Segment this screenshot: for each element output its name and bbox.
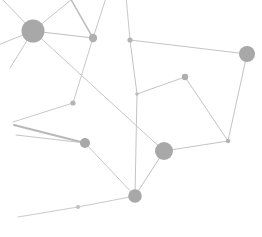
graph-edge <box>69 0 93 38</box>
graph-edge <box>13 103 73 122</box>
graph-edge <box>137 77 185 94</box>
graph-node[interactable] <box>182 74 188 80</box>
network-graph-canvas <box>0 0 262 237</box>
graph-edge <box>135 94 137 196</box>
graph-edge <box>164 141 228 151</box>
graph-node[interactable] <box>70 100 75 105</box>
graph-edge <box>130 40 247 54</box>
graph-node[interactable] <box>22 20 45 43</box>
network-graph-svg <box>0 0 262 237</box>
graph-node[interactable] <box>155 142 173 160</box>
graph-node[interactable] <box>127 37 132 42</box>
graph-node[interactable] <box>128 189 142 203</box>
graph-node[interactable] <box>226 139 230 143</box>
node-layer <box>22 20 256 210</box>
graph-edge <box>126 0 130 40</box>
graph-node[interactable] <box>239 46 255 62</box>
graph-edge <box>14 125 85 143</box>
graph-node[interactable] <box>89 34 97 42</box>
graph-edge <box>85 143 135 196</box>
graph-edge <box>228 54 247 141</box>
graph-edge <box>93 0 107 38</box>
graph-node[interactable] <box>80 138 90 148</box>
graph-edge <box>130 40 137 94</box>
graph-edge <box>16 135 85 143</box>
graph-edge <box>78 196 135 207</box>
graph-edge <box>185 77 228 141</box>
graph-node[interactable] <box>76 205 80 209</box>
graph-node[interactable] <box>135 92 139 96</box>
graph-edge <box>18 207 78 217</box>
